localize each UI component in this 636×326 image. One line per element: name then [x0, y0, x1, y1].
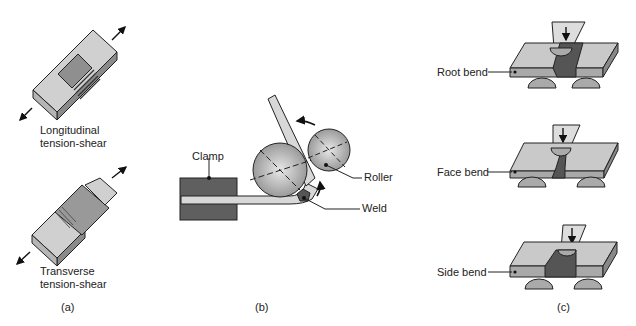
- longitudinal-label-line1: Longitudinal: [40, 124, 99, 137]
- longitudinal-specimen-icon: [20, 27, 125, 120]
- face-bend-icon: [488, 125, 618, 187]
- root-bend-label: Root bend: [437, 66, 488, 79]
- root-bend-icon: [488, 22, 618, 88]
- face-bend-label: Face bend: [437, 166, 489, 179]
- side-bend-label: Side bend: [437, 266, 487, 279]
- transverse-specimen-icon: [17, 167, 126, 266]
- transverse-label-line2: tension-shear: [40, 278, 107, 291]
- clamp-label: Clamp: [192, 150, 224, 163]
- weld-label: Weld: [362, 202, 387, 215]
- caption-a: (a): [61, 301, 74, 314]
- side-bend-icon: [488, 225, 617, 289]
- caption-b: (b): [255, 301, 268, 314]
- longitudinal-label-line2: tension-shear: [40, 137, 107, 150]
- caption-c: (c): [557, 301, 570, 314]
- roller-label: Roller: [364, 171, 393, 184]
- transverse-label-line1: Transverse: [40, 265, 95, 278]
